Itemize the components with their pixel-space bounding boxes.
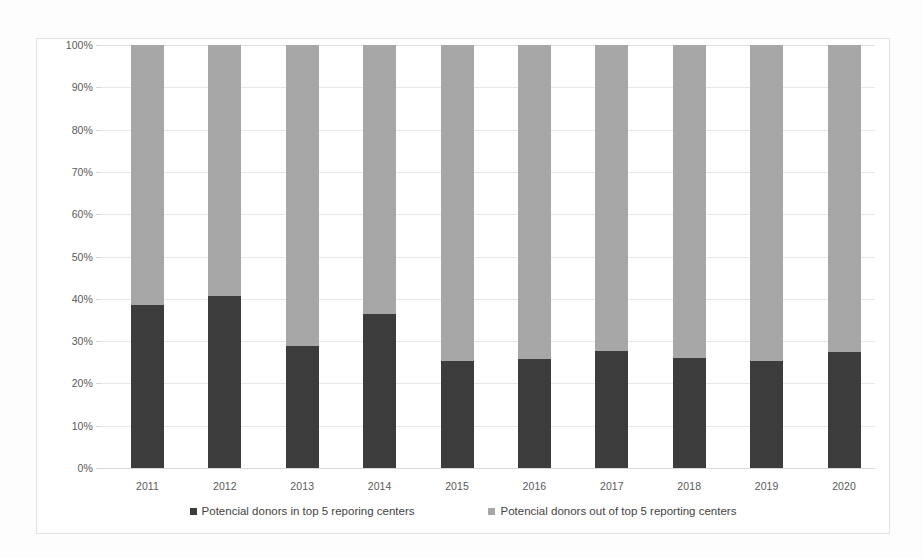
y-axis-tick-label: 50% [72,251,93,263]
plot-area: 100%90%80%70%60%50%40%30%20%10%0% 201120… [101,45,875,468]
legend-entry-out-top5[interactable]: Potencial donors out of top 5 reporting … [488,505,736,517]
bar-segment-out-top5-2015[interactable] [441,45,474,361]
bar-segment-in-top5-2014[interactable] [363,314,396,468]
y-axis-tick-label: 0% [78,462,93,474]
y-axis-tick-label: 100% [66,39,93,51]
bar-segment-in-top5-2019[interactable] [750,361,783,468]
bar-segment-out-top5-2018[interactable] [673,45,706,358]
bar-segment-out-top5-2011[interactable] [131,45,164,305]
x-axis-tick-label-2015: 2015 [445,480,469,492]
bar-group-2020[interactable] [828,45,861,468]
y-axis-tick-label: 80% [72,124,93,136]
chart-frame: 100%90%80%70%60%50%40%30%20%10%0% 201120… [36,38,890,534]
legend-entry-in-top5[interactable]: Potencial donors in top 5 reporing cente… [190,505,415,517]
legend-swatch-icon [488,508,495,515]
y-axis-tick-label: 40% [72,293,93,305]
y-axis-tick-label: 90% [72,81,93,93]
y-axis-tick-label: 70% [72,166,93,178]
y-axis-tick-label: 10% [72,420,93,432]
bar-segment-in-top5-2011[interactable] [131,305,164,468]
x-axis-tick-label-2016: 2016 [523,480,547,492]
legend-swatch-icon [190,508,197,515]
bar-segment-in-top5-2016[interactable] [518,359,551,468]
x-axis-tick-label-2014: 2014 [368,480,392,492]
y-axis-tick-label: 20% [72,377,93,389]
bar-segment-out-top5-2019[interactable] [750,45,783,361]
bar-group-2013[interactable] [286,45,319,468]
gridline-0% [101,468,875,469]
bar-segment-out-top5-2012[interactable] [208,45,241,296]
x-axis-tick-label-2020: 2020 [832,480,856,492]
legend-label: Potencial donors in top 5 reporing cente… [202,505,415,517]
bar-segment-in-top5-2013[interactable] [286,346,319,468]
bar-segment-in-top5-2020[interactable] [828,352,861,468]
x-axis-tick-label-2018: 2018 [677,480,701,492]
bar-group-2014[interactable] [363,45,396,468]
bar-segment-in-top5-2018[interactable] [673,358,706,468]
y-axis-tick-label: 60% [72,208,93,220]
bar-segment-out-top5-2013[interactable] [286,45,319,346]
y-tick-mark [96,468,101,469]
bar-group-2012[interactable] [208,45,241,468]
y-axis-tick-label: 30% [72,335,93,347]
bar-segment-in-top5-2017[interactable] [595,351,628,468]
bar-group-2011[interactable] [131,45,164,468]
x-axis-tick-label-2012: 2012 [213,480,237,492]
legend-label: Potencial donors out of top 5 reporting … [500,505,736,517]
bar-segment-out-top5-2020[interactable] [828,45,861,352]
bar-segment-in-top5-2015[interactable] [441,361,474,468]
x-axis-tick-label-2019: 2019 [755,480,779,492]
bar-group-2015[interactable] [441,45,474,468]
bar-segment-in-top5-2012[interactable] [208,296,241,468]
bar-group-2016[interactable] [518,45,551,468]
bar-group-2018[interactable] [673,45,706,468]
bar-segment-out-top5-2017[interactable] [595,45,628,351]
bar-group-2019[interactable] [750,45,783,468]
x-axis-tick-label-2011: 2011 [136,480,159,492]
chart-legend: Potencial donors in top 5 reporing cente… [37,505,889,517]
bar-segment-out-top5-2014[interactable] [363,45,396,314]
bar-segment-out-top5-2016[interactable] [518,45,551,359]
bars-layer [101,45,875,468]
x-axis-tick-label-2017: 2017 [600,480,624,492]
x-axis-tick-label-2013: 2013 [290,480,314,492]
bar-group-2017[interactable] [595,45,628,468]
